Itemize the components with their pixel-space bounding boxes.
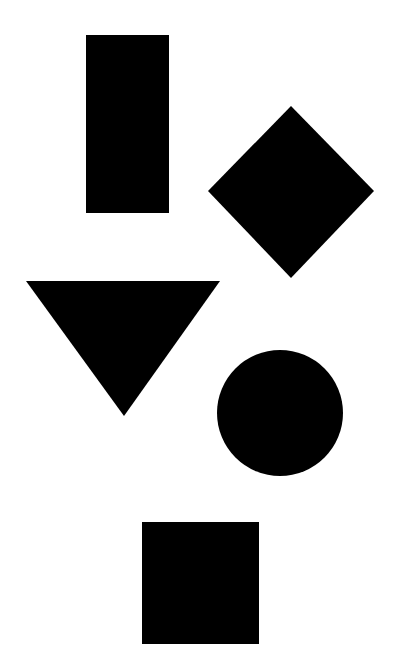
shapes-layer [0, 0, 398, 667]
diamond-shape [208, 106, 374, 278]
shape-canvas [0, 0, 398, 667]
square-shape [142, 522, 259, 644]
triangle-shape [26, 281, 220, 416]
rectangle-shape [86, 35, 169, 213]
circle-shape [217, 350, 343, 476]
